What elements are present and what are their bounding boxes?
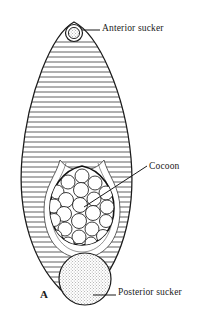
panel-label: A: [40, 288, 48, 300]
label-anterior-sucker: Anterior sucker: [102, 23, 164, 33]
label-cocoon: Cocoon: [149, 161, 179, 171]
anterior-sucker: [66, 25, 83, 42]
label-posterior-sucker: Posterior sucker: [118, 287, 182, 297]
posterior-sucker: [59, 253, 111, 305]
leech-cocoon-diagram: [0, 0, 204, 316]
